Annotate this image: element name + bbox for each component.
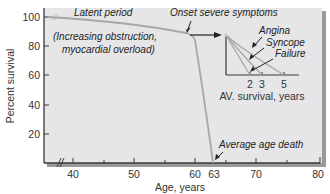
svg-text:40: 40	[28, 99, 40, 111]
survival-chart: 100 80 60 40 20 40 50 60 63 70 80 Percen…	[0, 0, 330, 194]
svg-text:60: 60	[28, 69, 40, 81]
svg-text:50: 50	[128, 168, 140, 180]
svg-text:80: 80	[28, 40, 40, 52]
svg-text:20: 20	[28, 128, 40, 140]
average-age-death-label: Average age death	[218, 139, 304, 150]
inset-tick-2: 2	[247, 78, 253, 90]
svg-text:63: 63	[208, 168, 220, 180]
inset-x-axis-title: AV. survival, years	[219, 90, 304, 102]
svg-text:70: 70	[250, 168, 262, 180]
onset-symptoms-label: Onset severe symptoms	[170, 7, 278, 18]
svg-text:40: 40	[67, 168, 79, 180]
x-axis-title: Age, years	[155, 181, 205, 193]
inset-tick-5: 5	[281, 78, 287, 90]
failure-label: Failure	[275, 48, 306, 59]
y-tick-labels: 100 80 60 40 20	[22, 11, 40, 140]
obstruction-label-line2: myocardial overload)	[62, 44, 155, 55]
x-tick-labels: 40 50 60 63 70 80	[67, 168, 324, 180]
syncope-label: Syncope	[266, 37, 305, 48]
angina-label: Angina	[258, 25, 291, 36]
svg-text:100: 100	[22, 11, 40, 23]
inset-apex	[224, 33, 227, 36]
svg-text:60: 60	[189, 168, 201, 180]
inset-tick-3: 3	[259, 78, 265, 90]
latent-period-label: Latent period	[74, 7, 133, 18]
svg-text:80: 80	[312, 168, 324, 180]
y-axis-title: Percent survival	[4, 49, 16, 124]
obstruction-label-line1: (Increasing obstruction,	[53, 31, 157, 42]
